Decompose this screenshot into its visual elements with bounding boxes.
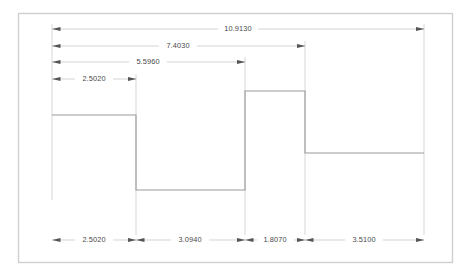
chain-label-3-5100: 3.5100: [352, 235, 375, 244]
technical-drawing: 10.9130 7.4030 5.5960 2.5020 2.5020 3.09…: [0, 0, 471, 274]
top-dimension-labels: 10.9130 7.4030 5.5960 2.5020: [75, 23, 258, 85]
drawing-canvas: 10.9130 7.4030 5.5960 2.5020 2.5020 3.09…: [0, 0, 471, 274]
chain-label-2-5020: 2.5020: [82, 235, 105, 244]
chain-label-3-0940: 3.0940: [178, 235, 201, 244]
dim-label-2-5020: 2.5020: [82, 74, 105, 83]
top-dimension-lines: [52, 29, 424, 79]
dim-label-7-4030: 7.4030: [166, 41, 189, 50]
drawing-frame: [19, 14, 453, 263]
extension-lines: [52, 24, 424, 235]
dim-label-10-9130: 10.9130: [224, 24, 251, 33]
dim-label-5-5960: 5.5960: [136, 57, 159, 66]
stepped-profile-outline: [52, 91, 424, 190]
chain-label-1-8070: 1.8070: [263, 235, 286, 244]
